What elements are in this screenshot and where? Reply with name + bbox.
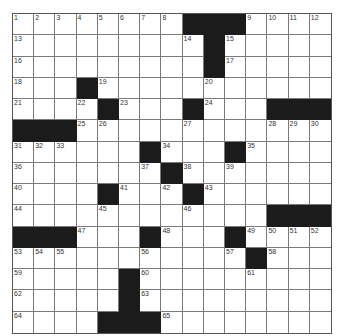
grid-cell[interactable]: 51 — [289, 227, 310, 248]
grid-cell[interactable] — [98, 290, 119, 311]
grid-cell[interactable] — [246, 99, 267, 120]
grid-cell[interactable] — [77, 184, 98, 205]
grid-cell[interactable]: 3 — [55, 14, 76, 35]
grid-cell[interactable] — [98, 163, 119, 184]
grid-cell[interactable] — [289, 78, 310, 99]
grid-cell[interactable] — [34, 205, 55, 226]
grid-cell[interactable]: 16 — [13, 57, 34, 78]
grid-cell[interactable]: 31 — [13, 142, 34, 163]
grid-cell[interactable] — [55, 163, 76, 184]
grid-cell[interactable] — [310, 248, 331, 269]
grid-cell[interactable] — [34, 312, 55, 333]
grid-cell[interactable] — [77, 248, 98, 269]
grid-cell[interactable]: 42 — [161, 184, 182, 205]
grid-cell[interactable] — [267, 269, 288, 290]
grid-cell[interactable] — [310, 269, 331, 290]
grid-cell[interactable] — [55, 57, 76, 78]
grid-cell[interactable] — [183, 248, 204, 269]
grid-cell[interactable] — [55, 269, 76, 290]
grid-cell[interactable] — [183, 312, 204, 333]
grid-cell[interactable] — [204, 142, 225, 163]
grid-cell[interactable]: 44 — [13, 205, 34, 226]
grid-cell[interactable]: 65 — [161, 312, 182, 333]
grid-cell[interactable]: 34 — [161, 142, 182, 163]
grid-cell[interactable] — [34, 35, 55, 56]
grid-cell[interactable]: 46 — [183, 205, 204, 226]
grid-cell[interactable]: 28 — [267, 120, 288, 141]
grid-cell[interactable]: 62 — [13, 290, 34, 311]
grid-cell[interactable] — [161, 99, 182, 120]
grid-cell[interactable]: 63 — [140, 290, 161, 311]
grid-cell[interactable] — [246, 120, 267, 141]
grid-cell[interactable] — [77, 35, 98, 56]
grid-cell[interactable] — [310, 142, 331, 163]
grid-cell[interactable] — [225, 120, 246, 141]
grid-cell[interactable] — [204, 227, 225, 248]
grid-cell[interactable] — [119, 142, 140, 163]
grid-cell[interactable] — [98, 269, 119, 290]
grid-cell[interactable]: 12 — [310, 14, 331, 35]
grid-cell[interactable]: 36 — [13, 163, 34, 184]
grid-cell[interactable] — [310, 78, 331, 99]
grid-cell[interactable]: 24 — [204, 99, 225, 120]
grid-cell[interactable]: 27 — [183, 120, 204, 141]
grid-cell[interactable]: 54 — [34, 248, 55, 269]
grid-cell[interactable] — [55, 312, 76, 333]
grid-cell[interactable] — [55, 290, 76, 311]
grid-cell[interactable] — [183, 269, 204, 290]
grid-cell[interactable] — [161, 57, 182, 78]
grid-cell[interactable]: 59 — [13, 269, 34, 290]
grid-cell[interactable] — [119, 205, 140, 226]
grid-cell[interactable] — [34, 78, 55, 99]
grid-cell[interactable] — [267, 184, 288, 205]
grid-cell[interactable]: 19 — [98, 78, 119, 99]
grid-cell[interactable] — [183, 290, 204, 311]
grid-cell[interactable]: 15 — [225, 35, 246, 56]
grid-cell[interactable]: 48 — [161, 227, 182, 248]
grid-cell[interactable] — [246, 163, 267, 184]
grid-cell[interactable]: 55 — [55, 248, 76, 269]
grid-cell[interactable] — [246, 184, 267, 205]
grid-cell[interactable] — [289, 290, 310, 311]
grid-cell[interactable] — [289, 35, 310, 56]
grid-cell[interactable] — [55, 184, 76, 205]
grid-cell[interactable]: 39 — [225, 163, 246, 184]
grid-cell[interactable] — [246, 312, 267, 333]
grid-cell[interactable] — [225, 78, 246, 99]
grid-cell[interactable]: 1 — [13, 14, 34, 35]
grid-cell[interactable] — [119, 57, 140, 78]
grid-cell[interactable] — [289, 57, 310, 78]
grid-cell[interactable] — [225, 269, 246, 290]
grid-cell[interactable]: 10 — [267, 14, 288, 35]
grid-cell[interactable]: 49 — [246, 227, 267, 248]
grid-cell[interactable] — [267, 35, 288, 56]
grid-cell[interactable] — [119, 163, 140, 184]
grid-cell[interactable] — [289, 142, 310, 163]
grid-cell[interactable]: 60 — [140, 269, 161, 290]
grid-cell[interactable] — [246, 78, 267, 99]
grid-cell[interactable] — [204, 269, 225, 290]
grid-cell[interactable]: 7 — [140, 14, 161, 35]
grid-cell[interactable]: 45 — [98, 205, 119, 226]
grid-cell[interactable] — [77, 205, 98, 226]
grid-cell[interactable]: 35 — [246, 142, 267, 163]
grid-cell[interactable]: 32 — [34, 142, 55, 163]
grid-cell[interactable] — [55, 78, 76, 99]
grid-cell[interactable] — [161, 269, 182, 290]
grid-cell[interactable] — [55, 35, 76, 56]
grid-cell[interactable] — [246, 35, 267, 56]
grid-cell[interactable] — [225, 290, 246, 311]
grid-cell[interactable] — [77, 163, 98, 184]
grid-cell[interactable]: 11 — [289, 14, 310, 35]
grid-cell[interactable] — [161, 248, 182, 269]
grid-cell[interactable] — [225, 99, 246, 120]
grid-cell[interactable]: 2 — [34, 14, 55, 35]
grid-cell[interactable]: 14 — [183, 35, 204, 56]
grid-cell[interactable] — [77, 312, 98, 333]
grid-cell[interactable] — [267, 142, 288, 163]
grid-cell[interactable]: 33 — [55, 142, 76, 163]
grid-cell[interactable] — [267, 163, 288, 184]
grid-cell[interactable]: 20 — [204, 78, 225, 99]
grid-cell[interactable] — [161, 35, 182, 56]
grid-cell[interactable] — [98, 227, 119, 248]
